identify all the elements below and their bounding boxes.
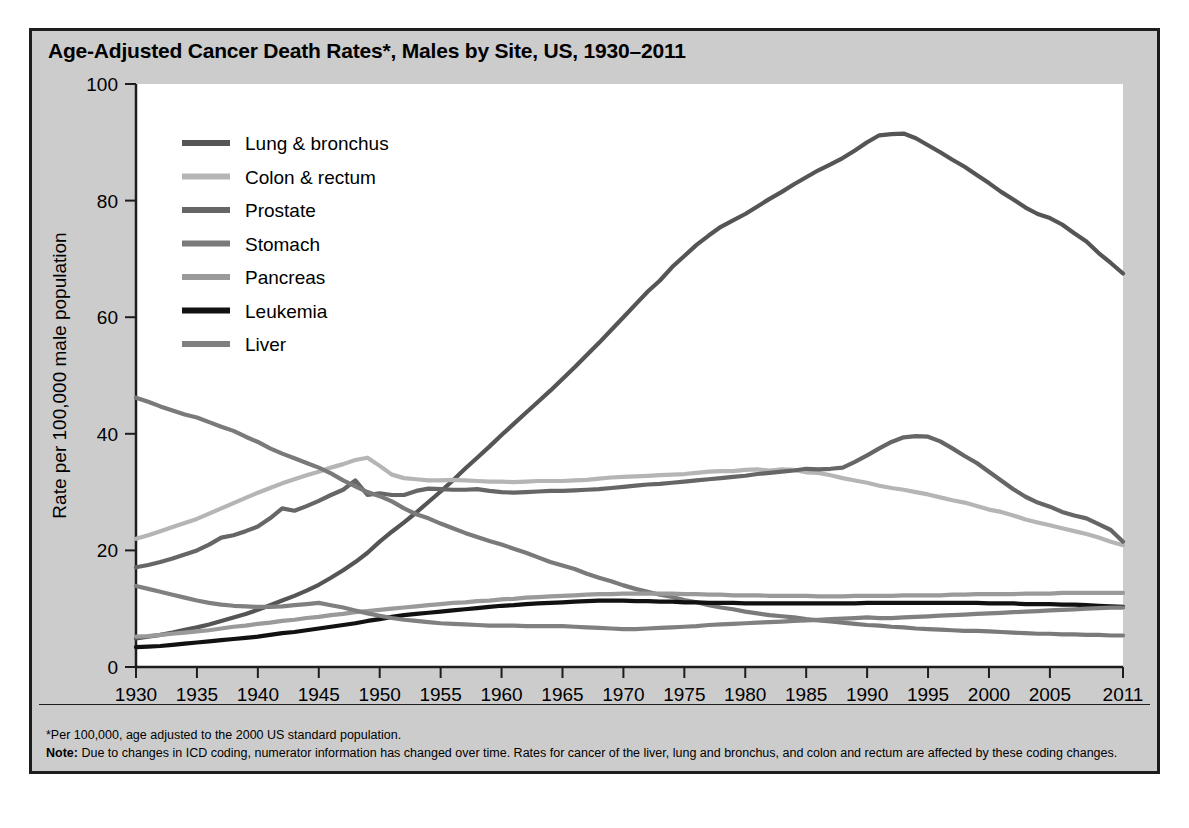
x-tick-label: 2011 <box>1103 684 1144 705</box>
x-tick-label: 1940 <box>237 684 279 705</box>
x-tick-label: 1990 <box>846 684 888 705</box>
x-tick-label: 1950 <box>359 684 401 705</box>
legend-label-liver: Liver <box>245 334 287 355</box>
y-tick-label: 60 <box>97 307 118 328</box>
x-tick-label: 1930 <box>115 684 157 705</box>
x-tick-label: 1960 <box>480 684 522 705</box>
legend-label-pancreas: Pancreas <box>245 267 325 288</box>
legend-label-lung-bronchus: Lung & bronchus <box>245 133 389 154</box>
x-tick-label: 2005 <box>1029 684 1071 705</box>
legend-label-stomach: Stomach <box>245 234 320 255</box>
footnote-asterisk: *Per 100,000, age adjusted to the 2000 U… <box>46 727 1141 744</box>
x-tick-label: 1945 <box>298 684 340 705</box>
legend-label-leukemia: Leukemia <box>245 301 328 322</box>
line-chart-svg: 0204060801001930193519401945195019551960… <box>32 31 1157 771</box>
x-tick-label: 1935 <box>176 684 218 705</box>
footnote-divider <box>39 704 1150 705</box>
y-tick-label: 20 <box>97 540 118 561</box>
x-tick-label: 1995 <box>907 684 949 705</box>
x-tick-label: 1975 <box>663 684 705 705</box>
x-tick-label: 1965 <box>541 684 583 705</box>
footnote-note-label: Note: <box>46 746 78 760</box>
footnotes: *Per 100,000, age adjusted to the 2000 U… <box>46 727 1141 763</box>
legend-label-prostate: Prostate <box>245 200 316 221</box>
legend-label-colon-rectum: Colon & rectum <box>245 167 376 188</box>
y-tick-label: 100 <box>86 74 118 95</box>
x-tick-label: 1955 <box>419 684 461 705</box>
y-tick-label: 80 <box>97 191 118 212</box>
x-tick-label: 2000 <box>968 684 1010 705</box>
y-tick-label: 40 <box>97 424 118 445</box>
footnote-note-text: Due to changes in ICD coding, numerator … <box>78 746 1117 760</box>
footnote-note: Note: Due to changes in ICD coding, nume… <box>46 745 1141 762</box>
x-tick-label: 1980 <box>724 684 766 705</box>
x-tick-label: 1985 <box>785 684 827 705</box>
y-axis-title: Rate per 100,000 male population <box>49 232 70 518</box>
plot-area: 0204060801001930193519401945195019551960… <box>32 31 1157 771</box>
x-tick-label: 1970 <box>602 684 644 705</box>
y-tick-label: 0 <box>107 657 118 678</box>
chart-figure: Age-Adjusted Cancer Death Rates*, Males … <box>29 28 1160 774</box>
